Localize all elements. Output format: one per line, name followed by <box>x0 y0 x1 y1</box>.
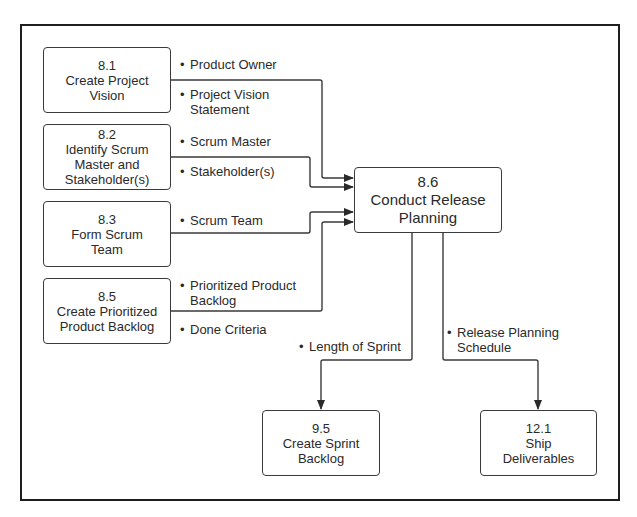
connector-8-6-to-12-1 <box>443 233 538 409</box>
flow-label-prioritized-product-backlog: •Prioritized Product Backlog <box>180 278 296 308</box>
process-title-line: Ship <box>525 436 551 451</box>
bullet-icon: • <box>299 339 309 354</box>
process-title-line: Backlog <box>298 451 344 466</box>
bullet-icon: • <box>180 57 190 72</box>
process-number: 8.1 <box>98 58 116 73</box>
process-title-line: Create Project <box>65 73 148 88</box>
bullet-icon: • <box>180 164 190 179</box>
process-number: 8.2 <box>98 127 116 142</box>
flow-label-release-planning-schedule: •Release Planning Schedule <box>447 325 559 355</box>
process-number: 8.3 <box>98 212 116 227</box>
connector-8-6-to-9-5 <box>321 233 412 409</box>
process-number: 12.1 <box>526 421 551 436</box>
process-title-line: Identify Scrum <box>65 142 148 157</box>
process-number: 9.5 <box>312 421 330 436</box>
process-title-line: Form Scrum <box>71 227 143 242</box>
bullet-icon: • <box>180 87 190 102</box>
process-box-8-3: 8.3 Form Scrum Team <box>43 201 171 267</box>
process-box-12-1: 12.1 Ship Deliverables <box>480 410 597 476</box>
process-title-line: Team <box>91 242 123 257</box>
process-number: 8.6 <box>418 173 439 191</box>
process-title-line: Create Sprint <box>283 436 360 451</box>
process-number: 8.5 <box>98 289 116 304</box>
process-title-line: Vision <box>89 88 124 103</box>
process-box-8-5: 8.5 Create Prioritized Product Backlog <box>43 278 171 344</box>
process-box-9-5: 9.5 Create Sprint Backlog <box>262 410 380 476</box>
flow-label-stakeholders: •Stakeholder(s) <box>180 164 275 179</box>
bullet-icon: • <box>180 278 190 293</box>
process-title-line: Product Backlog <box>60 319 155 334</box>
process-title-line: Planning <box>399 209 457 227</box>
bullet-icon: • <box>180 134 190 149</box>
process-title-line: Stakeholder(s) <box>65 172 150 187</box>
process-box-8-1: 8.1 Create Project Vision <box>43 47 171 113</box>
process-box-8-2: 8.2 Identify Scrum Master and Stakeholde… <box>43 124 171 190</box>
process-title-line: Deliverables <box>503 451 575 466</box>
process-title-line: Master and <box>74 157 139 172</box>
flow-label-scrum-team: •Scrum Team <box>180 213 263 228</box>
bullet-icon: • <box>180 213 190 228</box>
process-title-line: Create Prioritized <box>57 304 157 319</box>
bullet-icon: • <box>180 322 190 337</box>
flow-label-project-vision-statement: •Project Vision Statement <box>180 87 269 117</box>
flow-label-length-of-sprint: •Length of Sprint <box>299 339 401 354</box>
flow-label-scrum-master: •Scrum Master <box>180 134 271 149</box>
flow-label-done-criteria: •Done Criteria <box>180 322 267 337</box>
bullet-icon: • <box>447 325 457 340</box>
process-box-8-6: 8.6 Conduct Release Planning <box>354 167 502 233</box>
process-title-line: Conduct Release <box>370 191 485 209</box>
flow-label-product-owner: •Product Owner <box>180 57 277 72</box>
